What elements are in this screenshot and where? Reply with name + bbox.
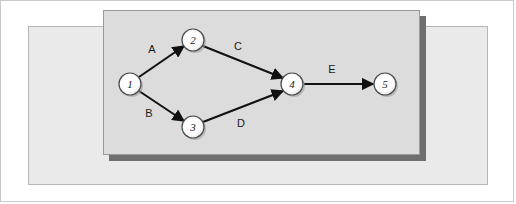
edge-C-line: [203, 46, 283, 78]
edge-label-D: D: [237, 117, 245, 129]
node-3-label: 3: [189, 121, 196, 133]
node-5-label: 5: [382, 78, 388, 90]
node-1[interactable]: 1: [119, 73, 141, 95]
node-4-label: 4: [289, 78, 295, 90]
edge-label-E: E: [328, 63, 335, 75]
node-2-label: 2: [190, 34, 196, 46]
node-5[interactable]: 5: [374, 73, 396, 95]
edge-label-C: C: [234, 40, 242, 52]
edge-label-B: B: [145, 107, 152, 119]
figure-container: A B C D E 1 2 3: [0, 0, 516, 204]
node-4[interactable]: 4: [281, 73, 303, 95]
network-graph: A B C D E 1 2 3: [0, 0, 516, 204]
node-3[interactable]: 3: [182, 116, 204, 138]
node-1-label: 1: [127, 78, 133, 90]
node-shadow-group: [121, 31, 398, 140]
node-2[interactable]: 2: [182, 29, 204, 51]
edge-group: [139, 46, 373, 122]
edge-label-A: A: [148, 43, 156, 55]
edge-A-line: [139, 46, 184, 77]
